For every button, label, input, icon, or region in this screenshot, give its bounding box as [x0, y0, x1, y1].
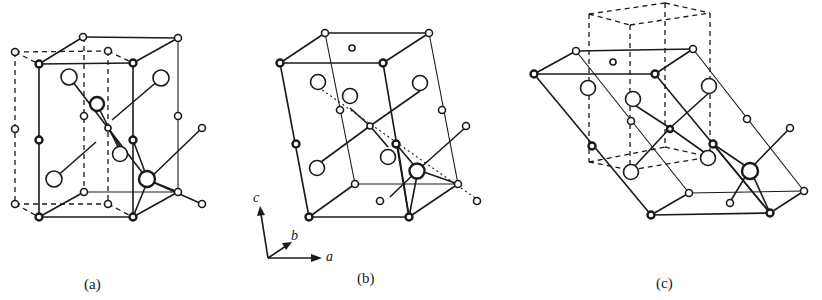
panel-b-caption: (b)	[357, 270, 375, 287]
axis-c-label: c	[253, 190, 259, 206]
axis-a-label: a	[326, 249, 333, 265]
panel-a-caption: (a)	[84, 276, 101, 293]
panel-c-caption: (c)	[656, 275, 673, 292]
panel-a-diagram	[12, 34, 206, 221]
crystal-structure-figure: c b a (a) (b) (c)	[0, 0, 822, 300]
panel-b-diagram	[277, 30, 481, 221]
panel-c-diagram	[531, 3, 808, 219]
axis-b-label: b	[291, 228, 298, 244]
